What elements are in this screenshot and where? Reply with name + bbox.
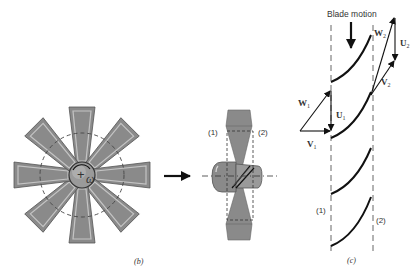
blade-motion-label: Blade motion [327, 9, 377, 19]
label-U2: U2 [400, 38, 410, 49]
side-station-2-label: (2) [258, 128, 268, 137]
cascade-station-1-label: (1) [316, 206, 326, 215]
caption-c: (c) [347, 256, 356, 265]
omega-label: ω [86, 172, 94, 186]
caption-b: (b) [134, 257, 144, 266]
rotor-front-view: + ω [14, 107, 150, 243]
label-W2: W2 [374, 28, 386, 39]
blade-profile [331, 148, 371, 194]
label-W1: W1 [298, 98, 310, 109]
label-U1: U1 [336, 110, 346, 121]
side-station-1-label: (1) [208, 128, 218, 137]
turbomachine-diagram: + ω (b) (1) (2) [0, 0, 420, 274]
center-mark: + [77, 167, 85, 182]
blade-profile [331, 197, 371, 246]
vector-W1 [300, 91, 330, 131]
cascade-station-2-label: (2) [376, 216, 386, 225]
label-V2: V2 [381, 77, 391, 88]
label-V1: V1 [307, 139, 317, 150]
